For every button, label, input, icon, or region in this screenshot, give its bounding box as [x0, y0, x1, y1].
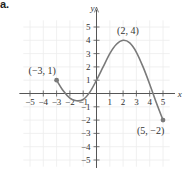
- y-tick-label: −5: [81, 155, 91, 165]
- x-tick-label: 5: [161, 97, 166, 107]
- y-tick-label: −4: [81, 142, 91, 152]
- point-label: (2, 4): [117, 25, 139, 37]
- function-graph: xy−5−4−3−2−112345−5−4−3−2−112345(−3, 1)(…: [0, 0, 186, 169]
- x-tick-label: 3: [134, 97, 139, 107]
- y-tick-label: −3: [81, 128, 91, 138]
- x-tick-label: 1: [108, 97, 113, 107]
- y-tick-label: −1: [81, 102, 91, 112]
- y-tick-label: 3: [86, 49, 91, 59]
- point-label: (5, −2): [137, 125, 164, 137]
- x-tick-label: −5: [25, 97, 35, 107]
- endpoint-dot: [54, 78, 59, 83]
- x-tick-label: −3: [52, 97, 62, 107]
- x-axis-label: x: [177, 89, 182, 99]
- x-tick-label: 2: [121, 97, 126, 107]
- y-tick-label: 1: [86, 75, 91, 85]
- x-tick-label: −4: [39, 97, 49, 107]
- y-tick-label: −2: [81, 115, 91, 125]
- x-tick-label: 4: [147, 97, 152, 107]
- y-tick-label: 4: [86, 35, 91, 45]
- y-tick-label: 5: [86, 22, 91, 32]
- y-axis-label: y: [90, 3, 95, 13]
- y-tick-label: 2: [86, 62, 91, 72]
- endpoint-dot: [161, 118, 166, 123]
- point-label: (−3, 1): [29, 65, 56, 77]
